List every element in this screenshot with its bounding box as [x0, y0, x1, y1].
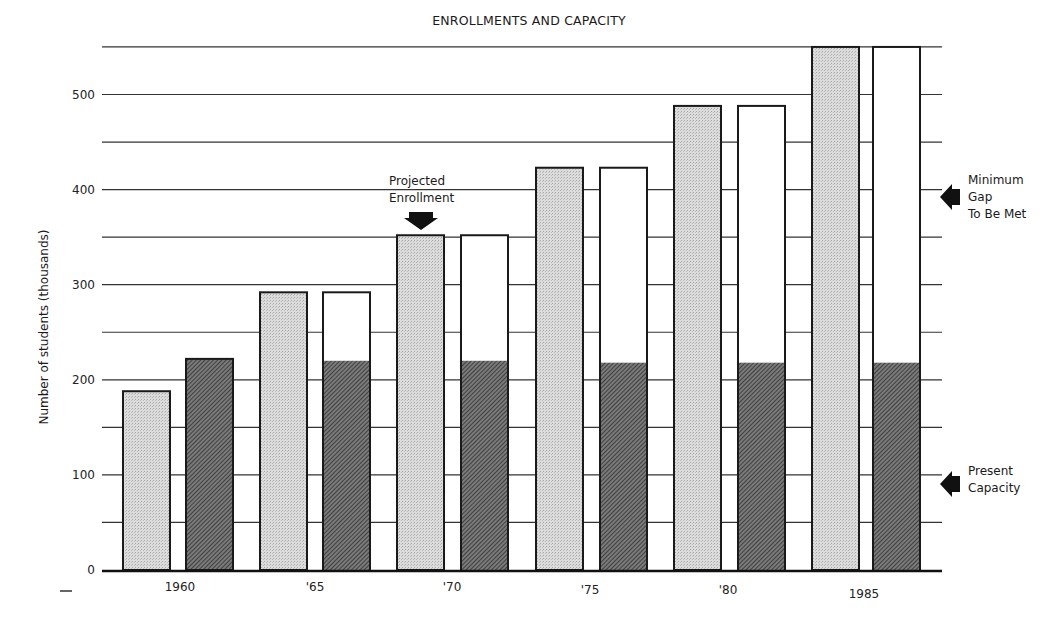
y-tick-label: 200	[72, 373, 95, 387]
bar-chart-plot: 01002003004005001960'65'70'75'801985	[0, 0, 1058, 624]
y-tick-label: 0	[87, 563, 95, 577]
x-tick-label: 1960	[165, 580, 196, 594]
enrollment-bar	[536, 168, 583, 570]
enrollment-bar	[812, 47, 859, 570]
minimum-gap-annotation: Minimum Gap To Be Met	[968, 172, 1026, 223]
gap-line3: To Be Met	[968, 206, 1026, 223]
gap-line2: Gap	[968, 189, 1026, 206]
y-tick-label: 400	[72, 183, 95, 197]
x-tick-label: '65	[306, 580, 325, 594]
capacity-segment	[324, 361, 369, 570]
enrollment-bar	[123, 391, 170, 570]
y-tick-label: 500	[72, 88, 95, 102]
projected-enrollment-annotation: Projected Enrollment	[389, 173, 454, 207]
projected-line2: Enrollment	[389, 190, 454, 207]
enrollment-bar	[674, 106, 721, 570]
arrow-down-icon	[404, 212, 438, 230]
enrollment-bar	[260, 292, 307, 570]
gap-line1: Minimum	[968, 172, 1026, 189]
gap-arrow-left-icon	[940, 184, 960, 210]
y-tick-label: 100	[72, 468, 95, 482]
capacity-segment	[739, 363, 784, 570]
capacity-line2: Capacity	[968, 480, 1020, 497]
x-tick-label: '75	[581, 583, 600, 597]
capacity-line1: Present	[968, 463, 1020, 480]
projected-line1: Projected	[389, 173, 454, 190]
y-tick-label: 300	[72, 278, 95, 292]
x-tick-label: '80	[719, 583, 738, 597]
x-tick-label: '70	[443, 580, 462, 594]
capacity-bar	[186, 359, 233, 570]
present-capacity-annotation: Present Capacity	[968, 463, 1020, 497]
capacity-segment	[462, 361, 507, 570]
capacity-segment	[601, 363, 646, 570]
capacity-arrow-left-icon	[940, 471, 960, 497]
bars	[123, 47, 920, 570]
enrollment-bar	[397, 235, 444, 570]
x-tick-label: 1985	[849, 587, 880, 601]
capacity-segment	[874, 363, 919, 570]
